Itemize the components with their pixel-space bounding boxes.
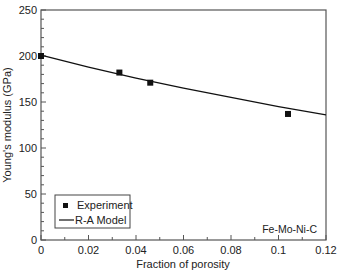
experiment-marker-icon xyxy=(63,203,68,208)
legend: Experiment R-A Model xyxy=(55,195,133,228)
y-tick-label: 100 xyxy=(19,142,37,154)
x-tick-label: 0 xyxy=(38,244,44,256)
experiment-point xyxy=(116,70,122,76)
x-tick-label: 0.12 xyxy=(315,244,336,256)
y-tick-label: 50 xyxy=(25,188,37,200)
x-tick-label: 0.04 xyxy=(125,244,146,256)
data-series xyxy=(38,53,326,117)
y-tick-label: 200 xyxy=(19,50,37,62)
x-tick-label: 0.1 xyxy=(271,244,286,256)
legend-experiment-label: Experiment xyxy=(77,199,133,211)
legend-model-label: R-A Model xyxy=(75,214,126,226)
x-tick-label: 0.06 xyxy=(173,244,194,256)
alloy-annotation: Fe-Mo-Ni-C xyxy=(262,223,317,235)
chart: 05010015020025000.020.040.060.080.10.12 … xyxy=(0,0,340,277)
model-curve xyxy=(41,55,326,115)
y-axis-label: Young's modulus (GPa) xyxy=(1,67,13,182)
y-tick-label: 0 xyxy=(31,234,37,246)
experiment-point xyxy=(285,111,291,117)
y-tick-label: 250 xyxy=(19,4,37,16)
x-tick-label: 0.02 xyxy=(78,244,99,256)
y-tick-label: 150 xyxy=(19,96,37,108)
experiment-point xyxy=(147,80,153,86)
x-axis-label: Fraction of porosity xyxy=(136,258,230,270)
experiment-point xyxy=(38,53,44,59)
x-tick-label: 0.08 xyxy=(220,244,241,256)
